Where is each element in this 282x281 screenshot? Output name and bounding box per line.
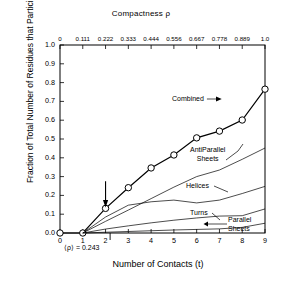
leader-parallel-sheets-head (204, 222, 209, 227)
data-point-combined (239, 117, 245, 123)
leader-helices (214, 186, 228, 192)
figure: Compactness ρ Fraction of Total Number o… (0, 0, 282, 281)
data-point-combined (57, 230, 63, 236)
data-point-combined (193, 135, 199, 141)
data-point-combined (216, 128, 222, 134)
data-point-combined (262, 86, 268, 92)
data-point-combined (125, 184, 131, 190)
series-line-combined (60, 89, 265, 233)
data-point-combined (171, 152, 177, 158)
leader-combined-head (216, 97, 222, 102)
plot-frame (60, 45, 265, 233)
data-point-combined (148, 165, 154, 171)
leader-antiparallel-sheets (226, 144, 243, 160)
plot-canvas (0, 0, 282, 281)
series-line-helices (83, 186, 265, 233)
